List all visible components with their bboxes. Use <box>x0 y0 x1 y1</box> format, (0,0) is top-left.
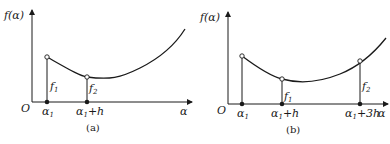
open-point-f1 <box>280 77 284 81</box>
axis-point-alpha1 <box>240 102 245 107</box>
tick-label-alpha1-h: α1+h <box>76 105 104 119</box>
f1-label: f1 <box>49 80 59 94</box>
axis-point-alpha1-h <box>85 100 90 105</box>
open-point-f2 <box>85 75 89 79</box>
tick-label-alpha1-3h: α1+3h <box>345 107 380 121</box>
diagram-canvas: f(α) O α f1 f2 α1 α1+h (a) f(α) O α f1 <box>0 0 390 144</box>
open-point-f1 <box>45 55 49 59</box>
caption-a: (a) <box>86 122 100 133</box>
figure-b: f(α) O α f1 f2 α1 α1+h α1+3h (b) <box>199 11 388 135</box>
f2-label: f2 <box>88 82 98 96</box>
axis-point-alpha1 <box>45 100 50 105</box>
figure-a: f(α) O α f1 f2 α1 α1+h (a) <box>3 9 192 133</box>
tick-label-alpha1: α1 <box>237 107 249 121</box>
origin-label: O <box>21 102 30 115</box>
x-axis-label: α <box>180 105 188 118</box>
f1-label: f1 <box>283 90 293 104</box>
tick-label-alpha1: α1 <box>42 105 54 119</box>
function-curve <box>47 29 185 78</box>
origin-label: O <box>217 104 226 117</box>
axis-point-alpha1-3h <box>358 102 363 107</box>
open-point-f2 <box>358 59 362 63</box>
f2-label: f2 <box>361 80 371 94</box>
open-point-alpha1 <box>240 54 244 58</box>
function-curve <box>242 38 386 82</box>
caption-b: (b) <box>286 124 300 135</box>
y-axis-label: f(α) <box>199 11 220 24</box>
tick-label-alpha1-h: α1+h <box>271 107 299 121</box>
y-axis-label: f(α) <box>3 9 24 22</box>
